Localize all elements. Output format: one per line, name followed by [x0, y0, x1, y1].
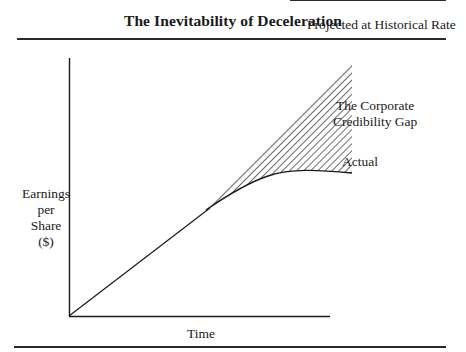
projected-label: Projected at Historical Rate [307, 17, 456, 32]
x-axis-label: Time [187, 326, 215, 341]
historical-line [69, 208, 210, 316]
plot-area [0, 0, 466, 352]
y-label-line1: Earnings [2, 186, 90, 202]
gap-label-line1: The Corporate [336, 98, 414, 113]
y-axis-label: Earnings per Share ($) [2, 186, 90, 250]
bottom-rule [14, 346, 446, 348]
y-label-line2: per [2, 202, 90, 218]
y-label-line3: Share [2, 218, 90, 234]
gap-label-line2: Credibility Gap [333, 114, 417, 129]
y-label-line4: ($) [2, 234, 90, 250]
credibility-gap-hatch [200, 60, 360, 220]
actual-label: Actual [342, 154, 378, 169]
